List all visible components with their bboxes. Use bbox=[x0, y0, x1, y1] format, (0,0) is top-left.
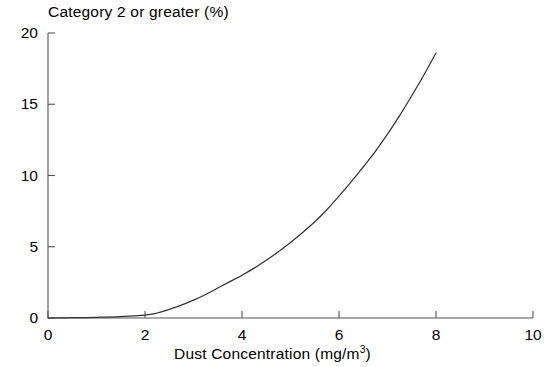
x-axis-title: Dust Concentration (mg/m3) bbox=[0, 345, 545, 363]
x-axis-tick-label: 2 bbox=[141, 326, 150, 344]
data-series-line bbox=[48, 53, 436, 318]
chart-figure: Category 2 or greater (%) 05101520 02468… bbox=[0, 0, 545, 367]
x-axis-title-prefix: Dust Concentration (mg/m bbox=[174, 345, 360, 362]
plot-area bbox=[0, 0, 545, 367]
axes bbox=[48, 33, 533, 318]
y-axis-tick-label: 5 bbox=[0, 238, 38, 256]
x-axis-tick-label: 4 bbox=[238, 326, 247, 344]
y-axis-tick-label: 15 bbox=[0, 95, 38, 113]
y-axis-tick-label: 20 bbox=[0, 24, 38, 42]
x-axis-tick-label: 6 bbox=[335, 326, 344, 344]
x-axis-title-suffix: ) bbox=[366, 345, 371, 362]
y-axis-ticks bbox=[48, 33, 55, 318]
x-axis-tick-label: 8 bbox=[432, 326, 441, 344]
x-axis-tick-label: 0 bbox=[44, 326, 53, 344]
y-axis-tick-label: 10 bbox=[0, 167, 38, 185]
y-axis-tick-label: 0 bbox=[0, 309, 38, 327]
x-axis-tick-label: 10 bbox=[524, 326, 541, 344]
